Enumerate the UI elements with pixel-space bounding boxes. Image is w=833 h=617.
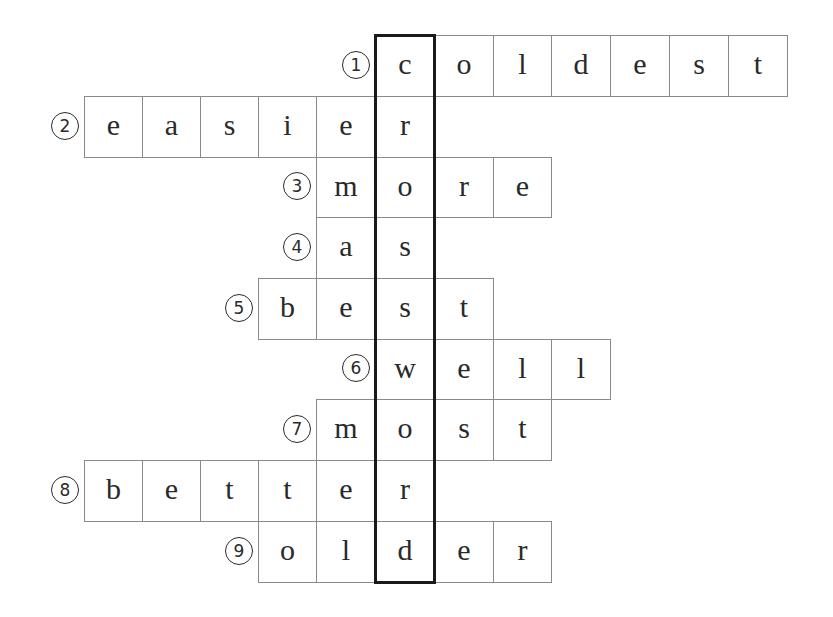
letter-cell[interactable]: r — [493, 521, 552, 583]
letter-cell[interactable]: e — [434, 521, 494, 583]
letter-cell[interactable]: t — [493, 399, 552, 461]
letter-cell[interactable]: e — [610, 35, 670, 97]
clue-number: 3 — [283, 172, 311, 200]
letter-cell[interactable]: b — [258, 278, 317, 340]
letter-cell[interactable]: l — [551, 339, 611, 400]
letter-cell[interactable]: e — [316, 278, 376, 340]
letter-cell[interactable]: e — [142, 460, 201, 522]
clue-number: 1 — [342, 51, 370, 79]
crossword-puzzle: 1coldest2easier3more4as5best6well7most8b… — [0, 0, 833, 617]
clue-number: 4 — [283, 233, 311, 261]
letter-cell[interactable]: m — [316, 399, 376, 461]
letter-cell[interactable]: o — [434, 35, 494, 97]
clue-number: 8 — [51, 476, 79, 504]
letter-cell[interactable]: d — [551, 35, 611, 97]
letter-cell[interactable]: b — [84, 460, 143, 522]
clue-number: 2 — [51, 112, 79, 140]
letter-cell[interactable]: r — [375, 96, 435, 158]
letter-cell[interactable]: t — [258, 460, 317, 522]
letter-cell[interactable]: d — [375, 521, 435, 583]
letter-cell[interactable]: e — [84, 96, 143, 158]
letter-cell[interactable]: c — [375, 35, 435, 97]
clue-number: 6 — [342, 354, 370, 382]
letter-cell[interactable]: o — [258, 521, 317, 583]
clue-number: 5 — [225, 294, 253, 322]
letter-cell[interactable]: o — [375, 157, 435, 218]
letter-cell[interactable]: t — [200, 460, 259, 522]
letter-cell[interactable]: s — [200, 96, 259, 158]
letter-cell[interactable]: r — [434, 157, 494, 218]
letter-cell[interactable]: a — [142, 96, 201, 158]
letter-cell[interactable]: m — [316, 157, 376, 218]
letter-cell[interactable]: r — [375, 460, 435, 522]
letter-cell[interactable]: e — [493, 157, 552, 218]
letter-cell[interactable]: e — [316, 96, 376, 158]
letter-cell[interactable]: a — [316, 217, 376, 279]
letter-cell[interactable]: e — [434, 339, 494, 400]
letter-cell[interactable]: l — [316, 521, 376, 583]
letter-cell[interactable]: s — [669, 35, 729, 97]
letter-cell[interactable]: o — [375, 399, 435, 461]
letter-cell[interactable]: s — [434, 399, 494, 461]
letter-cell[interactable]: s — [375, 217, 435, 279]
letter-cell[interactable]: l — [493, 35, 552, 97]
letter-cell[interactable]: s — [375, 278, 435, 340]
clue-number: 7 — [283, 415, 311, 443]
letter-cell[interactable]: w — [375, 339, 435, 400]
letter-cell[interactable]: t — [434, 278, 494, 340]
letter-cell[interactable]: i — [258, 96, 317, 158]
letter-cell[interactable]: l — [493, 339, 552, 400]
letter-cell[interactable]: e — [316, 460, 376, 522]
letter-cell[interactable]: t — [728, 35, 788, 97]
clue-number: 9 — [225, 537, 253, 565]
